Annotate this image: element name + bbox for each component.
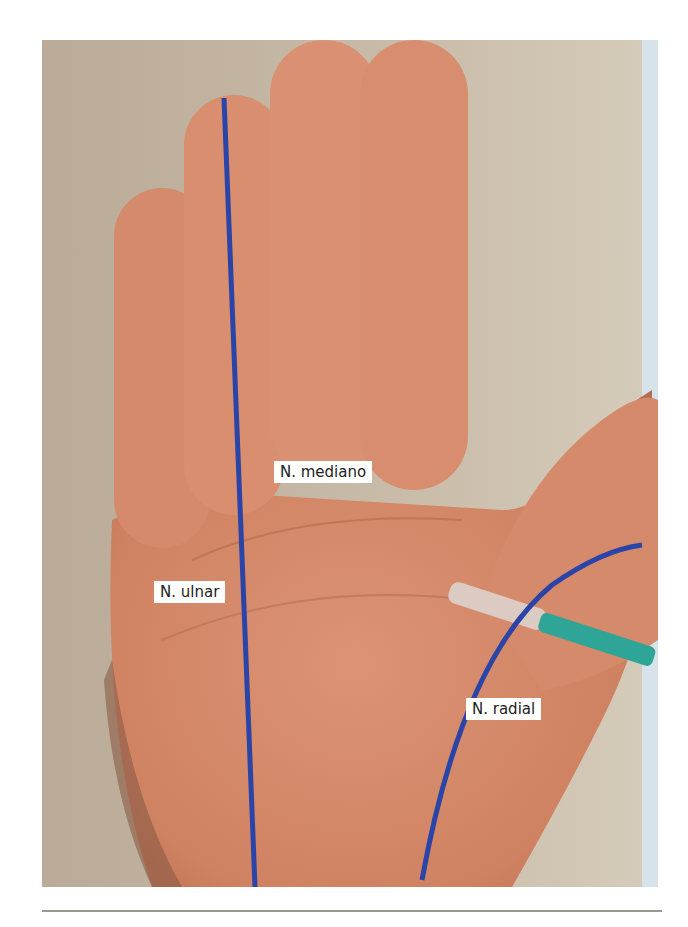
label-median-nerve: N. mediano — [274, 461, 372, 483]
label-ulnar-nerve: N. ulnar — [154, 581, 225, 603]
label-radial-nerve: N. radial — [466, 698, 541, 720]
caption-divider — [42, 910, 662, 912]
hand-nerve-figure: N. mediano N. ulnar N. radial — [42, 40, 658, 887]
